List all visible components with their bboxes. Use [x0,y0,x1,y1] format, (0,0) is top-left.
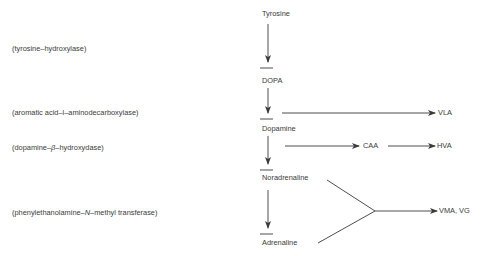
pathway-arrows [0,0,490,256]
line-adrenaline-junction [318,211,375,243]
line-noradrenaline-junction [327,180,375,211]
